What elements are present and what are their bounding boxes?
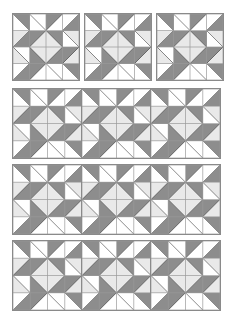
hst-unit: [65, 293, 82, 310]
hst-unit: [85, 64, 102, 81]
hst-unit: [65, 165, 82, 182]
hst-unit: [99, 165, 116, 182]
hst-unit: [203, 182, 220, 199]
hst-unit: [48, 141, 65, 158]
hst-unit: [135, 47, 152, 64]
quilt-block: [85, 14, 151, 80]
hst-unit: [99, 241, 116, 258]
hst-unit: [186, 293, 203, 310]
hst-unit: [48, 258, 65, 275]
hst-unit: [48, 241, 65, 258]
hst-unit: [99, 200, 116, 217]
hst-unit: [65, 276, 82, 293]
quilt-block: [82, 241, 151, 310]
hst-unit: [174, 14, 191, 31]
hst-unit: [118, 47, 135, 64]
hst-unit: [135, 64, 152, 81]
hst-unit: [13, 106, 30, 123]
hst-unit: [190, 14, 207, 31]
hst-unit: [85, 31, 102, 48]
hst-unit: [134, 200, 151, 217]
hst-unit: [46, 31, 63, 48]
hst-unit: [99, 293, 116, 310]
hst-unit: [13, 124, 30, 141]
hst-unit: [65, 258, 82, 275]
hst-unit: [30, 182, 47, 199]
hst-unit: [117, 258, 134, 275]
hst-unit: [102, 31, 119, 48]
hst-unit: [190, 31, 207, 48]
hst-unit: [168, 200, 185, 217]
hst-unit: [203, 241, 220, 258]
hst-unit: [207, 64, 224, 81]
hst-unit: [203, 258, 220, 275]
hst-unit: [168, 165, 185, 182]
hst-unit: [174, 64, 191, 81]
quilt-layout-sheet: [0, 0, 240, 318]
hst-unit: [48, 106, 65, 123]
hst-unit: [186, 141, 203, 158]
band-row-4: [13, 241, 220, 310]
hst-unit: [207, 14, 224, 31]
hst-unit: [46, 64, 63, 81]
hst-unit: [48, 276, 65, 293]
hst-unit: [82, 182, 99, 199]
quilt-block: [151, 89, 220, 158]
hst-unit: [151, 106, 168, 123]
hst-unit: [13, 241, 30, 258]
hst-unit: [151, 217, 168, 234]
hst-unit: [117, 141, 134, 158]
quilt-block-svg: [82, 89, 151, 158]
hst-unit: [118, 64, 135, 81]
hst-unit: [82, 124, 99, 141]
hst-unit: [168, 141, 185, 158]
hst-unit: [99, 124, 116, 141]
hst-unit: [134, 141, 151, 158]
hst-unit: [117, 293, 134, 310]
hst-unit: [48, 217, 65, 234]
hst-unit: [117, 217, 134, 234]
band-row-1: [13, 14, 223, 80]
hst-unit: [82, 258, 99, 275]
hst-unit: [117, 182, 134, 199]
hst-unit: [203, 200, 220, 217]
hst-unit: [30, 89, 47, 106]
hst-unit: [65, 217, 82, 234]
hst-unit: [85, 14, 102, 31]
hst-unit: [117, 276, 134, 293]
hst-unit: [65, 106, 82, 123]
hst-unit: [13, 276, 30, 293]
hst-unit: [30, 258, 47, 275]
hst-unit: [203, 106, 220, 123]
hst-unit: [63, 47, 80, 64]
hst-unit: [63, 64, 80, 81]
hst-unit: [186, 276, 203, 293]
quilt-block: [13, 241, 82, 310]
hst-unit: [151, 141, 168, 158]
hst-unit: [99, 182, 116, 199]
quilt-block: [82, 89, 151, 158]
hst-unit: [151, 124, 168, 141]
hst-unit: [186, 106, 203, 123]
hst-unit: [30, 217, 47, 234]
hst-unit: [13, 258, 30, 275]
hst-unit: [186, 89, 203, 106]
hst-unit: [65, 89, 82, 106]
hst-unit: [48, 124, 65, 141]
quilt-block: [157, 14, 223, 80]
hst-unit: [30, 124, 47, 141]
hst-unit: [134, 276, 151, 293]
hst-unit: [203, 165, 220, 182]
hst-unit: [102, 47, 119, 64]
hst-unit: [151, 89, 168, 106]
quilt-block-svg: [151, 89, 220, 158]
hst-unit: [102, 64, 119, 81]
hst-unit: [134, 217, 151, 234]
hst-unit: [157, 14, 174, 31]
hst-unit: [203, 217, 220, 234]
quilt-block: [13, 165, 82, 234]
hst-unit: [203, 293, 220, 310]
hst-unit: [48, 182, 65, 199]
hst-unit: [135, 31, 152, 48]
hst-unit: [102, 14, 119, 31]
